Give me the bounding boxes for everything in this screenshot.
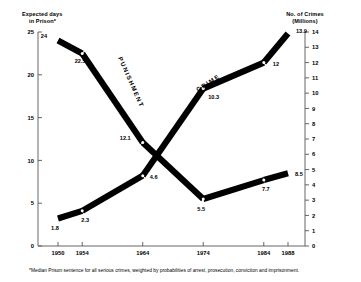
x-tick-label: 1974 [197,250,211,256]
series-crime [57,32,290,222]
left-axis-title-line2: in Prison* [29,18,57,24]
series-punishment [57,38,289,202]
punishment-segment [141,140,206,201]
crime-value-label: 4.6 [150,174,158,180]
crime-segment [140,87,206,178]
left-tick-label: 25 [28,29,35,35]
right-tick-label: 5 [312,167,316,173]
right-tick-label: 10 [312,90,318,96]
crime-value-label: 1.8 [51,225,59,231]
punishment-segment [263,170,289,183]
left-tick-label: 10 [28,158,34,164]
punishment-value-label: 5.5 [197,206,205,212]
x-tick-label: 1964 [136,250,150,256]
x-tick-label: 1954 [76,250,90,256]
footnote-text: *Median Prison sentence for all serious … [29,268,299,273]
x-tick-label: 1950 [52,250,65,256]
x-axis-ticks: 195019541964197419841988 [52,242,296,256]
right-axis-ticks: 01234567891011121314 [305,29,319,249]
punishment-value-label: 8.5 [295,171,303,177]
left-axis-ticks: 0510152025 [28,29,42,249]
right-tick-label: 4 [312,182,316,188]
right-tick-label: 9 [312,106,316,112]
x-tick-label: 1984 [257,250,271,256]
crime-vertex [262,61,265,64]
crime-vertex [141,174,144,177]
crime-vertex [81,209,84,212]
crime-segment [81,173,145,214]
punishment-segment [57,38,84,56]
right-axis-title-line2: (Millions) [292,18,318,24]
crime-value-label: 12 [273,61,279,67]
right-tick-label: 11 [312,75,319,81]
crime-segment [57,208,83,222]
dual-axis-line-chart: Expected days in Prison* No. of Crimes (… [0,0,361,282]
right-tick-label: 3 [312,197,316,203]
right-tick-label: 7 [312,136,315,142]
right-tick-label: 6 [312,151,316,157]
left-tick-label: 20 [28,72,34,78]
punishment-vertex [141,141,144,144]
chart-container: Expected days in Prison* No. of Crimes (… [0,0,361,282]
left-axis-title-line1: Expected days [22,11,62,17]
punishment-value-label: 7.7 [262,186,270,192]
left-tick-label: 5 [31,200,35,206]
right-tick-label: 0 [312,243,315,249]
series-layer [57,32,291,222]
crime-value-label: 13.9 [296,28,307,34]
punishment-value-label: 22.5 [75,58,86,64]
right-tick-label: 2 [312,213,315,219]
punishment-vertex [81,52,84,55]
right-tick-label: 8 [312,121,316,127]
right-tick-label: 14 [312,29,319,35]
punishment-segment [202,177,264,202]
punishment-value-label: 24 [41,33,48,39]
left-tick-label: 15 [28,115,35,121]
crime-value-label: 10.3 [208,94,219,100]
crime-value-label: 2.3 [81,217,89,223]
series-label-punishment: PUNISHMENT [117,56,146,109]
punishment-vertex [202,197,205,200]
punishment-vertex [262,179,265,182]
right-tick-label: 13 [312,44,319,50]
left-tick-label: 0 [31,243,34,249]
right-tick-label: 12 [312,60,318,66]
right-axis-title-line1: No. of Crimes [286,11,324,17]
x-tick-label: 1988 [282,250,296,256]
punishment-value-label: 12.1 [120,135,131,141]
right-tick-label: 1 [312,228,316,234]
